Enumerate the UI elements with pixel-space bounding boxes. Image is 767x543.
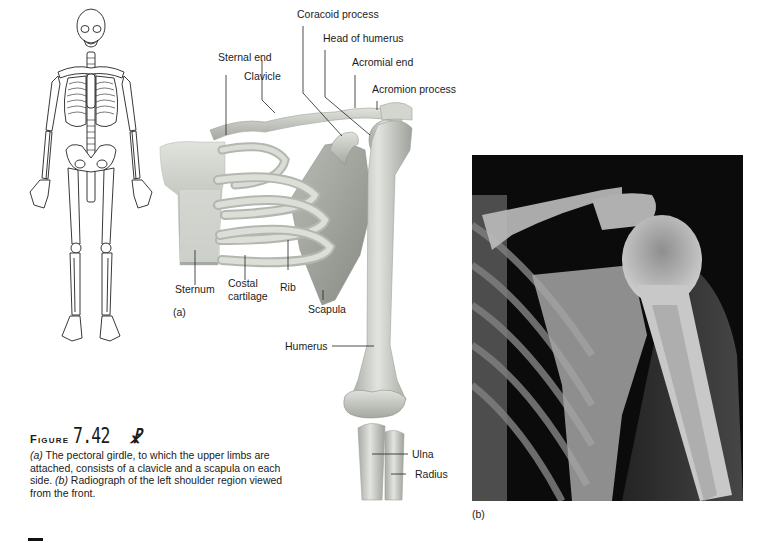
caption-a-marker: (a) <box>30 449 43 461</box>
caption-b-marker: (b) <box>55 474 68 486</box>
panel-a-marker: (a) <box>173 306 186 318</box>
radius-shape <box>385 430 404 500</box>
panel-b-marker: (b) <box>472 508 485 520</box>
scapula-shape <box>290 143 372 305</box>
label-clavicle: Clavicle <box>244 70 281 82</box>
label-costal-line2: cartilage <box>228 290 268 302</box>
label-coracoid-process: Coracoid process <box>297 8 379 20</box>
caption-b-text: Radiograph of the left shoulder region v… <box>30 474 282 499</box>
label-rib: Rib <box>280 281 296 293</box>
label-head-of-humerus: Head of humerus <box>323 32 404 44</box>
running-figure-icon: ☧ <box>129 428 142 447</box>
label-costal-cartilage: Costal cartilage <box>228 277 268 303</box>
figure-number: 7.42 <box>73 423 110 448</box>
figure-caption: (a) The pectoral girdle, to which the up… <box>30 449 300 499</box>
label-radius: Radius <box>415 468 448 480</box>
label-acromion-process: Acromion process <box>372 83 456 95</box>
label-humerus: Humerus <box>285 340 328 352</box>
label-costal-line1: Costal <box>228 277 258 289</box>
ulna-shape <box>358 423 385 500</box>
label-acromial-end: Acromial end <box>352 56 413 68</box>
radiograph-image <box>472 155 743 501</box>
figure-word: Figure <box>30 433 69 445</box>
figure-title: Figure7.42 ☧ <box>30 423 142 448</box>
label-sternum: Sternum <box>175 283 215 295</box>
label-scapula: Scapula <box>308 303 346 315</box>
label-ulna: Ulna <box>412 448 434 460</box>
label-sternal-end: Sternal end <box>218 51 272 63</box>
page-bar-mark <box>28 538 43 541</box>
